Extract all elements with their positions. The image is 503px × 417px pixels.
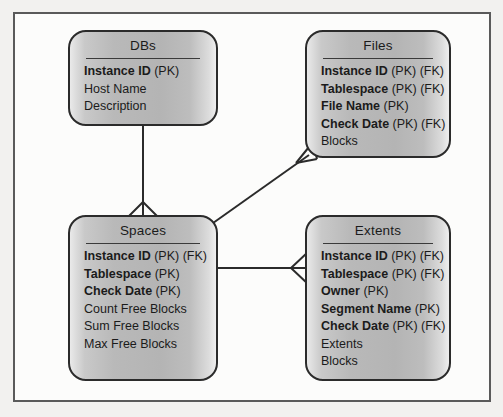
attribute-name: Tablespace: [84, 267, 151, 281]
entity-spaces[interactable]: Spaces Instance ID (PK) (FK) Tablespace …: [68, 215, 218, 381]
entity-dbs-divider: [86, 58, 200, 59]
attribute-row: Blocks: [321, 133, 449, 151]
entity-files-title: Files: [307, 37, 449, 57]
attribute-name: Instance ID: [84, 64, 151, 78]
attribute-row: Count Free Blocks: [84, 301, 216, 319]
attribute-keys: (PK): [384, 99, 409, 113]
entity-files-attributes: Instance ID (PK) (FK) Tablespace (PK) (F…: [307, 63, 449, 151]
attribute-row: File Name (PK): [321, 98, 449, 116]
attribute-name: Segment Name: [321, 302, 411, 316]
attribute-row: Owner (PK): [321, 283, 449, 301]
attribute-row: Tablespace (PK) (FK): [321, 81, 449, 99]
entity-dbs-attributes: Instance ID (PK) Host Name Description: [70, 63, 216, 116]
entity-extents-title: Extents: [307, 222, 449, 242]
attribute-keys: (PK): [415, 302, 440, 316]
attribute-name: Tablespace: [321, 267, 388, 281]
attribute-name: Tablespace: [321, 82, 388, 96]
attribute-keys: (PK): [363, 284, 388, 298]
attribute-keys: (PK) (FK): [391, 249, 444, 263]
attribute-row: Blocks: [321, 353, 449, 371]
entity-spaces-attributes: Instance ID (PK) (FK) Tablespace (PK) Ch…: [70, 248, 216, 353]
attribute-name: Count Free Blocks: [84, 302, 187, 316]
attribute-keys: (PK): [155, 267, 180, 281]
attribute-row: Extents: [321, 336, 449, 354]
attribute-row: Segment Name (PK): [321, 301, 449, 319]
entity-spaces-divider: [86, 243, 200, 244]
entity-files[interactable]: Files Instance ID (PK) (FK) Tablespace (…: [305, 30, 451, 158]
attribute-name: Sum Free Blocks: [84, 319, 179, 333]
entity-extents-attributes: Instance ID (PK) (FK) Tablespace (PK) (F…: [307, 248, 449, 371]
attribute-row: Instance ID (PK) (FK): [321, 248, 449, 266]
attribute-row: Instance ID (PK): [84, 63, 216, 81]
entity-extents-divider: [323, 243, 433, 244]
attribute-keys: (PK): [156, 284, 181, 298]
attribute-keys: (PK) (FK): [393, 117, 446, 131]
attribute-row: Host Name: [84, 81, 216, 99]
attribute-name: Blocks: [321, 134, 358, 148]
attribute-name: Blocks: [321, 354, 358, 368]
er-diagram: DBs Instance ID (PK) Host Name Descripti…: [0, 0, 503, 417]
attribute-row: Max Free Blocks: [84, 336, 216, 354]
attribute-name: Check Date: [84, 284, 152, 298]
attribute-keys: (PK): [154, 64, 179, 78]
attribute-keys: (PK) (FK): [154, 249, 207, 263]
attribute-name: File Name: [321, 99, 380, 113]
attribute-row: Check Date (PK): [84, 283, 216, 301]
attribute-name: Max Free Blocks: [84, 337, 177, 351]
attribute-name: Check Date: [321, 117, 389, 131]
attribute-keys: (PK) (FK): [392, 82, 445, 96]
attribute-keys: (PK) (FK): [391, 64, 444, 78]
attribute-name: Instance ID: [321, 249, 388, 263]
attribute-row: Tablespace (PK): [84, 266, 216, 284]
attribute-name: Owner: [321, 284, 360, 298]
attribute-keys: (PK) (FK): [393, 319, 446, 333]
entity-spaces-title: Spaces: [70, 222, 216, 242]
attribute-row: Tablespace (PK) (FK): [321, 266, 449, 284]
entity-dbs[interactable]: DBs Instance ID (PK) Host Name Descripti…: [68, 30, 218, 126]
attribute-row: Instance ID (PK) (FK): [84, 248, 216, 266]
attribute-name: Extents: [321, 337, 363, 351]
entity-dbs-title: DBs: [70, 37, 216, 57]
attribute-row: Check Date (PK) (FK): [321, 116, 449, 134]
attribute-keys: (PK) (FK): [392, 267, 445, 281]
entity-extents[interactable]: Extents Instance ID (PK) (FK) Tablespace…: [305, 215, 451, 381]
attribute-row: Instance ID (PK) (FK): [321, 63, 449, 81]
attribute-row: Description: [84, 98, 216, 116]
attribute-row: Sum Free Blocks: [84, 318, 216, 336]
attribute-name: Host Name: [84, 82, 147, 96]
attribute-name: Check Date: [321, 319, 389, 333]
entity-files-divider: [323, 58, 433, 59]
attribute-name: Instance ID: [321, 64, 388, 78]
attribute-name: Instance ID: [84, 249, 151, 263]
attribute-name: Description: [84, 99, 147, 113]
attribute-row: Check Date (PK) (FK): [321, 318, 449, 336]
